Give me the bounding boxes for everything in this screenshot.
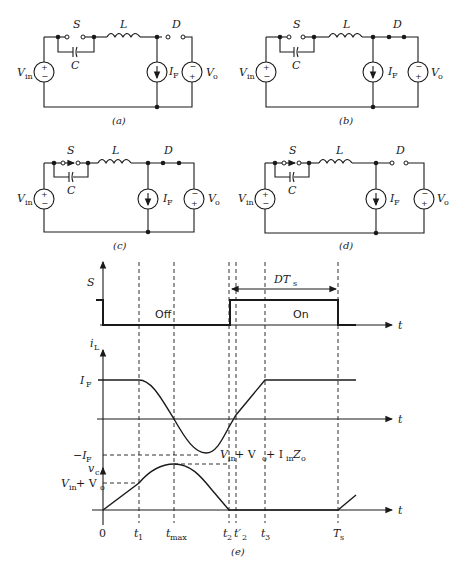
timing-diagram: S Off On DTs t iL IF −IF t V in + V o + … bbox=[61, 262, 403, 557]
svg-text:−: − bbox=[422, 189, 429, 198]
svg-text:+ V: + V bbox=[235, 448, 257, 461]
svg-text:+ V: + V bbox=[76, 477, 98, 490]
svg-text:−: − bbox=[192, 189, 199, 198]
label-d: D bbox=[171, 18, 181, 31]
svg-text:L: L bbox=[335, 144, 343, 157]
svg-text:o: o bbox=[213, 72, 218, 81]
svg-text:in: in bbox=[25, 198, 33, 207]
svg-text:s: s bbox=[340, 533, 344, 542]
svg-text:t: t bbox=[398, 319, 403, 332]
svg-text:D: D bbox=[392, 18, 402, 31]
svg-text:+: + bbox=[262, 190, 269, 199]
svg-text:−: − bbox=[42, 199, 49, 208]
label-s: S bbox=[73, 18, 81, 31]
caption-a: (a) bbox=[112, 115, 126, 126]
time-tick-labels: 0 t1 tmax t2 t′2 t3 Ts bbox=[99, 527, 344, 542]
svg-text:s: s bbox=[293, 279, 297, 288]
svg-text:F: F bbox=[173, 71, 179, 80]
svg-text:Z: Z bbox=[292, 448, 301, 461]
svg-text:+: + bbox=[415, 72, 422, 81]
svg-text:S: S bbox=[289, 144, 297, 157]
on-label: On bbox=[293, 308, 309, 321]
svg-text:F: F bbox=[392, 71, 398, 80]
caption-d: (d) bbox=[339, 240, 353, 251]
svg-text:L: L bbox=[94, 343, 100, 352]
dts-label: DT bbox=[273, 273, 292, 286]
if-level-label: I bbox=[79, 374, 85, 387]
svg-text:C: C bbox=[67, 184, 76, 197]
circuit-b: + − − + S L D C Vin IF Vo (b) bbox=[239, 18, 443, 126]
svg-text:C: C bbox=[292, 59, 301, 72]
peak-voltage-label: V in + V o + I in Z o bbox=[220, 448, 306, 463]
svg-text:2: 2 bbox=[242, 533, 247, 542]
vin-plus: + bbox=[41, 63, 48, 72]
vc-label: v bbox=[88, 462, 95, 475]
label-c: C bbox=[71, 59, 80, 72]
svg-text:o: o bbox=[301, 454, 306, 463]
caption-b: (b) bbox=[339, 115, 353, 126]
svg-text:2: 2 bbox=[227, 533, 232, 542]
circuit-d: + − − + S L D C Vin IF Vo (d) bbox=[238, 144, 449, 251]
svg-text:t: t bbox=[398, 504, 403, 517]
svg-text:in: in bbox=[25, 72, 33, 81]
svg-text:t′: t′ bbox=[234, 527, 241, 540]
svg-text:F: F bbox=[167, 198, 173, 207]
circuit-a: + − − + S L D C Vin IF Vo (a) bbox=[17, 18, 218, 126]
vinvo-level-label: V in + V o bbox=[61, 477, 105, 492]
svg-text:0: 0 bbox=[99, 527, 106, 540]
svg-text:L: L bbox=[342, 18, 350, 31]
vc-waveform bbox=[103, 464, 356, 510]
s-waveform bbox=[96, 300, 356, 325]
svg-text:o: o bbox=[438, 72, 443, 81]
svg-text:+: + bbox=[189, 72, 196, 81]
svg-text:−: − bbox=[263, 199, 270, 208]
svg-text:3: 3 bbox=[265, 533, 270, 542]
svg-text:−: − bbox=[416, 62, 423, 71]
svg-text:D: D bbox=[395, 144, 405, 157]
il-waveform bbox=[98, 380, 356, 453]
svg-text:o: o bbox=[444, 198, 449, 207]
caption-c: (c) bbox=[113, 240, 127, 251]
label-l: L bbox=[119, 18, 127, 31]
svg-text:+: + bbox=[191, 199, 198, 208]
svg-text:D: D bbox=[163, 144, 173, 157]
svg-text:−: − bbox=[264, 72, 271, 81]
svg-text:F: F bbox=[86, 380, 92, 389]
svg-text:S: S bbox=[67, 144, 75, 157]
svg-text:o: o bbox=[100, 483, 105, 492]
svg-text:in: in bbox=[246, 198, 254, 207]
svg-text:+: + bbox=[421, 199, 428, 208]
svg-text:o: o bbox=[215, 198, 220, 207]
svg-text:c: c bbox=[95, 468, 100, 477]
svg-text:C: C bbox=[288, 184, 297, 197]
circuit-c: + − − + S L D C Vin IF Vo (c) bbox=[17, 144, 220, 251]
svg-text:+ I: + I bbox=[266, 448, 283, 461]
svg-text:S: S bbox=[293, 18, 301, 31]
svg-text:+: + bbox=[41, 190, 48, 199]
zvs-buck-converter-figure: + − − + S L D C Vin IF Vo (a) bbox=[0, 0, 465, 573]
s-label: S bbox=[87, 276, 95, 289]
svg-text:F: F bbox=[394, 198, 400, 207]
svg-text:L: L bbox=[111, 144, 119, 157]
svg-text:1: 1 bbox=[138, 533, 143, 542]
svg-text:in: in bbox=[247, 72, 255, 81]
svg-text:max: max bbox=[170, 533, 187, 542]
vin-minus: − bbox=[42, 72, 49, 81]
il-label: i bbox=[90, 337, 94, 350]
svg-text:+: + bbox=[263, 63, 270, 72]
caption-e: (e) bbox=[231, 546, 245, 557]
svg-text:t: t bbox=[398, 413, 403, 426]
svg-text:−: − bbox=[190, 62, 197, 71]
off-label: Off bbox=[155, 308, 172, 321]
